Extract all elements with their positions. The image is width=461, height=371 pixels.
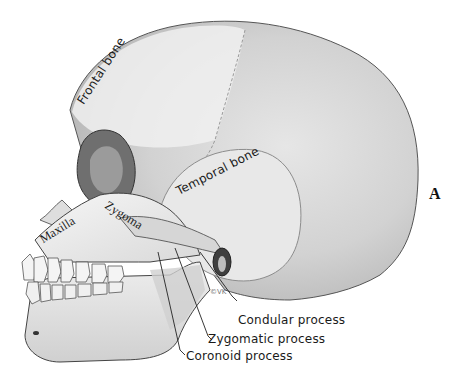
panel-letter: A	[429, 185, 441, 203]
skull-illustration: Frontal bone Temporal bone Zygoma Maxill…	[0, 0, 461, 371]
label-coronoid-process: Coronoid process	[186, 349, 293, 363]
label-zygomatic-process: Zygomatic process	[208, 332, 325, 346]
artist-signature: ©VK	[210, 288, 226, 296]
label-condular-process: Condular process	[238, 313, 345, 327]
skull-drawing	[0, 0, 461, 371]
